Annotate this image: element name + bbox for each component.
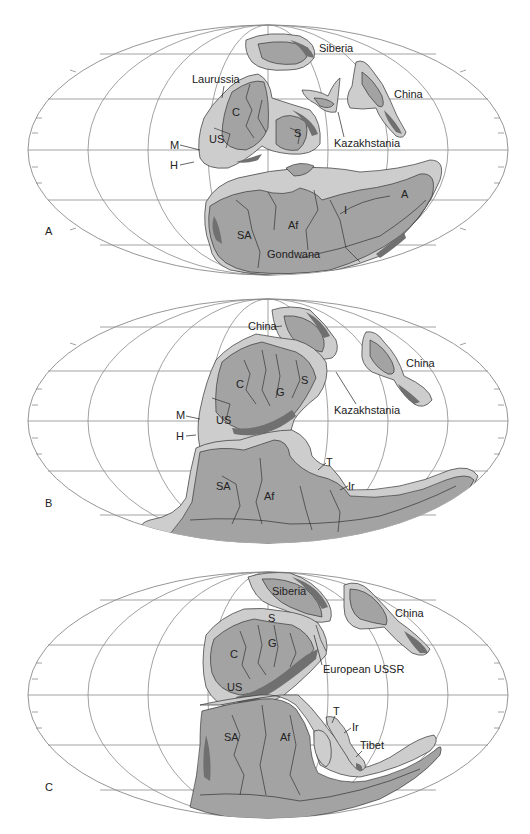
label-s: S — [294, 127, 301, 139]
label-china: China — [395, 607, 425, 619]
label-us: US — [209, 133, 224, 145]
label-i: I — [344, 204, 347, 216]
label-china-north: China — [248, 320, 278, 332]
label-g: G — [268, 637, 277, 649]
kazakhstania-landmass — [302, 78, 340, 112]
map-panel-b: China China Kazakhstania C G S US M H SA… — [0, 280, 530, 555]
label-china-east: China — [406, 357, 436, 369]
mollweide-map-a: Siberia China Laurussia Kazakhstania C U… — [0, 0, 530, 280]
label-kazakhstania: Kazakhstania — [334, 404, 401, 416]
label-g: G — [276, 386, 285, 398]
label-ir: Ir — [348, 480, 355, 492]
panel-letter-b: B — [45, 497, 52, 509]
label-us: US — [216, 414, 231, 426]
label-s: S — [268, 612, 275, 624]
label-af: Af — [280, 731, 291, 743]
label-t: T — [333, 705, 340, 717]
panel-letter-c: C — [45, 781, 53, 793]
map-panel-a: Siberia China Laurussia Kazakhstania C U… — [0, 0, 530, 280]
landmasses — [199, 34, 442, 276]
label-af: Af — [288, 219, 299, 231]
label-laurussia: Laurussia — [192, 73, 241, 85]
label-c: C — [232, 106, 240, 118]
label-sa: SA — [216, 480, 231, 492]
map-panel-c: Siberia China S G C US European USSR SA … — [0, 555, 530, 834]
mollweide-map-b: China China Kazakhstania C G S US M H SA… — [0, 280, 530, 555]
label-kazakhstania: Kazakhstania — [334, 137, 401, 149]
label-siberia: Siberia — [272, 585, 307, 597]
label-c: C — [236, 378, 244, 390]
label-m: M — [176, 409, 185, 421]
label-af: Af — [264, 490, 275, 502]
label-s: S — [301, 374, 308, 386]
label-european-ussr: European USSR — [323, 663, 404, 675]
label-ir: Ir — [352, 721, 359, 733]
panel-letter-a: A — [45, 225, 53, 237]
label-tibet: Tibet — [360, 739, 384, 751]
label-us: US — [227, 681, 242, 693]
label-gondwana: Gondwana — [267, 248, 321, 260]
label-sa: SA — [237, 229, 252, 241]
label-h: H — [170, 159, 178, 171]
label-c: C — [230, 648, 238, 660]
label-china: China — [394, 88, 424, 100]
landmasses — [142, 307, 478, 546]
mollweide-map-c: Siberia China S G C US European USSR SA … — [0, 555, 530, 834]
label-t: T — [326, 456, 333, 468]
label-sa: SA — [224, 731, 239, 743]
label-m: M — [170, 139, 179, 151]
label-a: A — [401, 188, 409, 200]
label-siberia: Siberia — [319, 42, 354, 54]
label-h: H — [176, 430, 184, 442]
